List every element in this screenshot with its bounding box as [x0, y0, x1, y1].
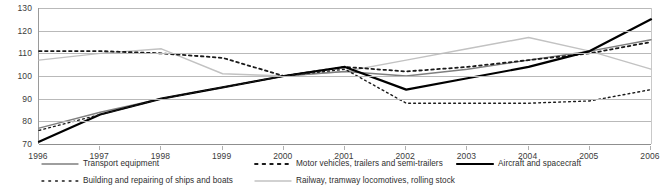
- x-tick-mark: [405, 146, 406, 150]
- legend-label: Building and repairing of ships and boat…: [83, 176, 233, 186]
- legend-line-swatch-icon: [253, 159, 293, 169]
- gridline: [39, 76, 651, 77]
- x-tick-mark: [283, 146, 284, 150]
- line-chart: 130120110100908070 199619971998199920002…: [0, 0, 664, 193]
- legend-line-swatch-icon: [253, 176, 293, 186]
- x-tick-mark: [344, 146, 345, 150]
- legend-label: Transport equipment: [83, 159, 159, 169]
- x-tick-mark: [528, 146, 529, 150]
- series-line: [39, 19, 651, 141]
- y-tick-label: 90: [22, 94, 32, 103]
- legend-label: Motor vehicles, trailers and semi-traile…: [296, 159, 443, 169]
- legend-label: Railway, tramway locomotives, rolling st…: [296, 176, 455, 186]
- x-tick-mark: [650, 146, 651, 150]
- legend-line-swatch-icon: [40, 176, 80, 186]
- x-tick-mark: [160, 146, 161, 150]
- gridline: [39, 53, 651, 54]
- x-tick-mark: [589, 146, 590, 150]
- y-axis-labels: 130120110100908070: [0, 0, 36, 152]
- gridline: [39, 144, 651, 145]
- x-tick-mark: [222, 146, 223, 150]
- legend-label: Aircraft and spacecraft: [498, 159, 581, 169]
- y-tick-label: 70: [22, 140, 32, 149]
- legend-item[interactable]: Motor vehicles, trailers and semi-traile…: [253, 158, 443, 170]
- x-tick-mark: [99, 146, 100, 150]
- plot-area: [38, 8, 652, 144]
- gridline: [39, 8, 651, 9]
- legend-line-swatch-icon: [455, 159, 495, 169]
- legend-item[interactable]: Transport equipment: [40, 158, 159, 170]
- y-tick-label: 110: [18, 49, 32, 58]
- gridline: [39, 31, 651, 32]
- x-tick-mark: [466, 146, 467, 150]
- y-tick-label: 120: [18, 26, 32, 35]
- legend-item[interactable]: Railway, tramway locomotives, rolling st…: [253, 175, 455, 187]
- y-tick-label: 80: [22, 117, 32, 126]
- gridline: [39, 121, 651, 122]
- y-tick-label: 130: [18, 4, 32, 13]
- legend-line-swatch-icon: [40, 159, 80, 169]
- legend-item[interactable]: Building and repairing of ships and boat…: [40, 175, 233, 187]
- y-tick-label: 100: [18, 72, 32, 81]
- gridline: [39, 99, 651, 100]
- legend-item[interactable]: Aircraft and spacecraft: [455, 158, 581, 170]
- plot-area-wrapper: 130120110100908070: [0, 0, 664, 152]
- chart-legend: Transport equipmentMotor vehicles, trail…: [0, 158, 664, 192]
